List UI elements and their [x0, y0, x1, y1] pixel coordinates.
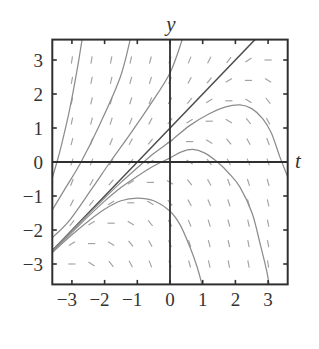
x-tick-label: −2 — [89, 289, 109, 310]
y-tick-label: 2 — [34, 84, 44, 105]
x-tick-label: 1 — [198, 289, 208, 310]
y-tick-label: 1 — [34, 118, 44, 139]
y-tick-label: 3 — [34, 50, 44, 71]
y-tick-label: −1 — [23, 186, 43, 207]
x-tick-label: 0 — [165, 289, 175, 310]
y-tick-label: 0 — [34, 152, 44, 173]
slope-field-plot: −3−2−101233210−1−2−3 y t — [0, 0, 319, 349]
y-tick-label: −3 — [23, 254, 43, 275]
x-tick-label: 3 — [263, 289, 273, 310]
slope-field-figure: −3−2−101233210−1−2−3 y t — [0, 0, 319, 349]
x-tick-label: −3 — [57, 289, 77, 310]
x-tick-label: 2 — [231, 289, 241, 310]
y-tick-label: −2 — [23, 220, 43, 241]
y-axis-label: y — [164, 12, 176, 36]
x-tick-label: −1 — [122, 289, 142, 310]
